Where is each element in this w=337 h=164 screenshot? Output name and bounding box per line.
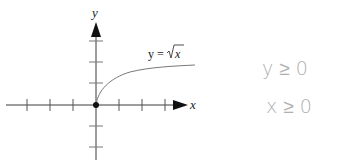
note-x-nonneg: x ≥ 0 xyxy=(266,95,312,117)
origin-dot xyxy=(93,102,99,108)
svg-text:y =: y = xyxy=(148,47,164,61)
x-axis-label: x xyxy=(189,97,196,112)
sqrt-curve xyxy=(96,65,195,105)
y-axis-arrow-icon xyxy=(91,22,101,37)
curve-label: y = x xyxy=(148,45,184,61)
sqrt-graph: x y y = x y ≥ 0 x ≥ 0 xyxy=(0,0,337,164)
y-axis-label: y xyxy=(90,5,98,20)
svg-text:x: x xyxy=(174,47,181,61)
handwritten-notes: y ≥ 0 x ≥ 0 xyxy=(262,57,312,117)
note-y-nonneg: y ≥ 0 xyxy=(262,57,308,79)
x-axis-arrow-icon xyxy=(173,100,188,110)
